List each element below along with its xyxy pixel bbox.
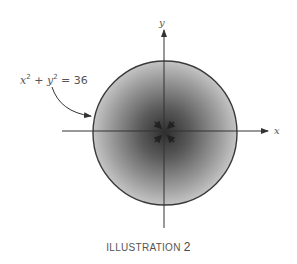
equation-label: x2 + y2 = 36: [20, 73, 88, 87]
figure-caption: ILLUSTRATION 2: [0, 240, 297, 254]
caption-number: 2: [184, 240, 191, 254]
illustration-figure: x y x2 + y2 = 36: [0, 0, 297, 264]
leader-arrow: [52, 87, 91, 116]
y-axis-label: y: [158, 17, 165, 28]
x-axis-label: x: [274, 125, 280, 136]
caption-word: ILLUSTRATION: [106, 242, 181, 253]
shaded-disk: [93, 61, 237, 205]
